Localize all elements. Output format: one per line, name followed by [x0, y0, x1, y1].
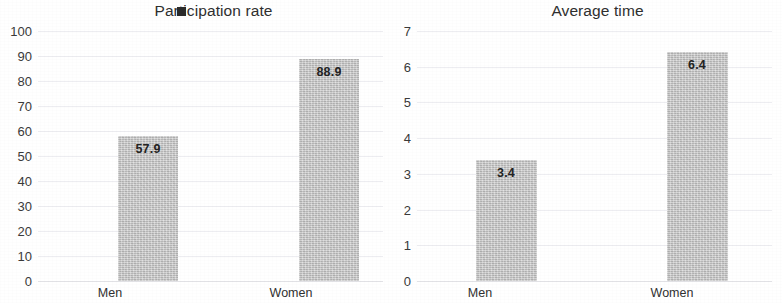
y-axis-tick-label: 10 — [2, 250, 32, 263]
y-axis-tick-label: 5 — [393, 96, 411, 109]
chart-title-average-time: Average time — [391, 2, 782, 20]
y-axis-tick-label: 50 — [2, 150, 32, 163]
bar-value-label: 6.4 — [667, 58, 728, 72]
plot-area-average-time: 765432103.46.4 — [417, 31, 772, 281]
gridline — [38, 31, 383, 32]
bar-value-label: 88.9 — [299, 65, 359, 79]
bar-women[interactable]: 88.9 — [299, 59, 359, 281]
bar-men[interactable]: 3.4 — [476, 160, 537, 281]
charts-container: Participation rate 100908070605040302010… — [0, 0, 782, 303]
y-axis-tick-label: 20 — [2, 225, 32, 238]
y-axis-tick-label: 0 — [2, 275, 32, 288]
y-axis-tick-label: 40 — [2, 175, 32, 188]
y-axis-tick-label: 4 — [393, 132, 411, 145]
chart-participation-rate: Participation rate 100908070605040302010… — [0, 0, 391, 303]
chart-average-time: Average time 765432103.46.4 Men Women — [391, 0, 782, 303]
x-axis-label-women: Women — [642, 286, 702, 300]
gridline — [38, 281, 383, 282]
y-axis-tick-label: 70 — [2, 100, 32, 113]
y-axis-tick-label: 90 — [2, 50, 32, 63]
y-axis-tick-label: 0 — [393, 275, 411, 288]
y-axis-tick-label: 100 — [2, 25, 32, 38]
y-axis-tick-label: 80 — [2, 75, 32, 88]
gridline — [417, 31, 772, 32]
bar-value-label: 57.9 — [118, 142, 178, 156]
y-axis-tick-label: 6 — [393, 61, 411, 74]
x-axis-label-men: Men — [450, 286, 510, 300]
bar-men[interactable]: 57.9 — [118, 136, 178, 281]
y-axis-tick-label: 7 — [393, 25, 411, 38]
y-axis-tick-label: 3 — [393, 168, 411, 181]
y-axis-tick-label: 60 — [2, 125, 32, 138]
y-axis-tick-label: 2 — [393, 204, 411, 217]
gridline — [417, 281, 772, 282]
x-axis-label-men: Men — [80, 286, 140, 300]
gridline — [38, 56, 383, 57]
bar-women[interactable]: 6.4 — [667, 52, 728, 281]
y-axis-tick-label: 30 — [2, 200, 32, 213]
bar-value-label: 3.4 — [476, 166, 537, 180]
x-axis-label-women: Women — [261, 286, 321, 300]
plot-area-participation-rate: 100908070605040302010057.988.9 — [38, 31, 383, 281]
chart-title-text-part2: icipation rate — [183, 2, 272, 19]
chart-title-participation-rate: Participation rate — [0, 2, 391, 20]
y-axis-tick-label: 1 — [393, 239, 411, 252]
